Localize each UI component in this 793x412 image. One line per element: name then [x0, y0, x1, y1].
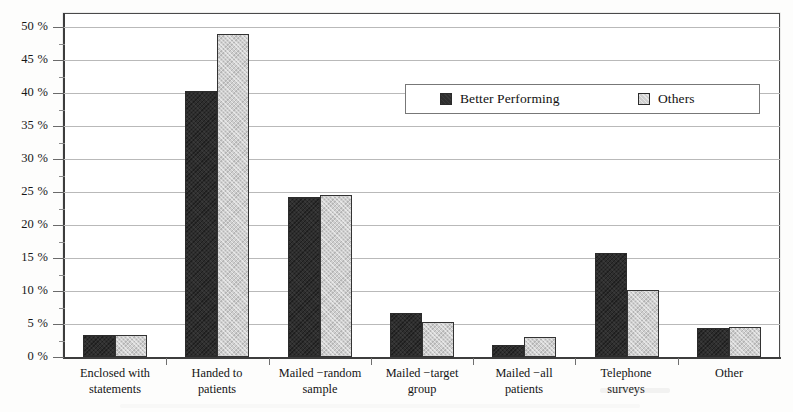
y-axis-tick-minor	[59, 209, 65, 210]
x-axis-label-line1: Telephone	[600, 366, 651, 380]
legend-label-better-performing: Better Performing	[460, 91, 560, 107]
gridline	[64, 27, 780, 28]
bar-0-2	[288, 197, 320, 357]
x-axis-tick	[473, 358, 474, 365]
scan-artifact	[120, 404, 640, 408]
gridline	[64, 291, 780, 292]
y-axis-tick-minor	[59, 176, 65, 177]
y-axis-tick	[53, 291, 64, 292]
x-axis-tick	[269, 358, 270, 365]
y-axis-label: 15 %	[4, 250, 48, 265]
bar-1-6	[729, 327, 761, 357]
legend-swatch-icon-others	[638, 93, 650, 105]
x-axis-tick	[371, 358, 372, 365]
y-axis-tick-minor	[59, 44, 65, 45]
y-axis-tick-minor	[59, 77, 65, 78]
y-axis-tick-minor	[59, 308, 65, 309]
bar-1-0	[115, 335, 147, 357]
x-axis-label-6: Other	[678, 366, 780, 382]
bar-0-4	[492, 345, 524, 357]
x-axis-label-2: Mailed −randomsample	[269, 366, 371, 397]
legend: Better Performing Others	[405, 84, 760, 114]
x-axis-label-line1: Handed to	[192, 366, 243, 380]
y-axis-label: 45 %	[4, 52, 48, 67]
y-axis-tick-minor	[59, 341, 65, 342]
legend-entry-others: Others	[638, 91, 695, 107]
bar-0-5	[595, 253, 627, 357]
x-axis-label-line2: group	[371, 382, 473, 398]
x-axis-label-line2: sample	[269, 382, 371, 398]
y-axis-tick	[53, 126, 64, 127]
y-axis-tick-minor	[59, 242, 65, 243]
scan-artifact	[600, 388, 670, 393]
bar-chart-figure: 0 %5 %10 %15 %20 %25 %30 %35 %40 %45 %50…	[0, 0, 793, 412]
x-axis-label-line1: Mailed −target	[386, 366, 459, 380]
y-axis-label: 0 %	[4, 349, 48, 364]
legend-label-others: Others	[658, 91, 695, 107]
bar-1-1	[217, 34, 249, 357]
bar-1-5	[627, 290, 659, 357]
x-axis-tick	[575, 358, 576, 365]
gridline	[64, 126, 780, 127]
x-axis-label-line1: Mailed −random	[279, 366, 361, 380]
x-axis-label-0: Enclosed withstatements	[64, 366, 166, 397]
x-axis-label-1: Handed topatients	[166, 366, 268, 397]
x-axis-label-4: Mailed −allpatients	[473, 366, 575, 397]
y-axis-tick	[53, 225, 64, 226]
y-axis-tick	[53, 159, 64, 160]
x-axis-label-line2: patients	[473, 382, 575, 398]
x-axis-label-line1: Mailed −all	[495, 366, 552, 380]
gridline	[64, 258, 780, 259]
y-axis-label: 50 %	[4, 19, 48, 34]
x-axis-label-line1: Enclosed with	[80, 366, 150, 380]
x-axis-label-line2: patients	[166, 382, 268, 398]
y-axis-tick	[53, 27, 64, 28]
y-axis-label: 35 %	[4, 118, 48, 133]
x-axis-spine	[63, 357, 781, 359]
bar-1-2	[320, 195, 352, 357]
bar-0-3	[390, 313, 422, 357]
x-axis-tick	[166, 358, 167, 365]
x-axis-tick	[678, 358, 679, 365]
bar-1-4	[524, 337, 556, 357]
gridline	[64, 225, 780, 226]
plot-area	[63, 13, 780, 358]
bar-0-1	[185, 91, 217, 357]
y-axis-label: 25 %	[4, 184, 48, 199]
bar-1-3	[422, 322, 454, 357]
bar-0-6	[697, 328, 729, 357]
bar-0-0	[83, 335, 115, 357]
gridline	[64, 60, 780, 61]
y-axis-tick-minor	[59, 143, 65, 144]
y-axis-tick-minor	[59, 275, 65, 276]
legend-swatch-icon-better-performing	[440, 93, 452, 105]
gridline	[64, 159, 780, 160]
y-axis-tick	[53, 357, 64, 358]
y-axis-tick	[53, 258, 64, 259]
legend-entry-better-performing: Better Performing	[440, 91, 560, 107]
y-axis-label: 40 %	[4, 85, 48, 100]
x-axis-label-3: Mailed −targetgroup	[371, 366, 473, 397]
y-axis-tick	[53, 324, 64, 325]
gridline	[64, 192, 780, 193]
y-axis-label: 10 %	[4, 283, 48, 298]
y-axis-label: 5 %	[4, 316, 48, 331]
x-axis-label-line2: statements	[64, 382, 166, 398]
y-axis-label: 20 %	[4, 217, 48, 232]
y-axis-tick	[53, 93, 64, 94]
y-axis-tick	[53, 192, 64, 193]
y-axis-label: 30 %	[4, 151, 48, 166]
y-axis-tick	[53, 60, 64, 61]
y-axis-tick-minor	[59, 110, 65, 111]
x-axis-label-line1: Other	[715, 366, 743, 380]
